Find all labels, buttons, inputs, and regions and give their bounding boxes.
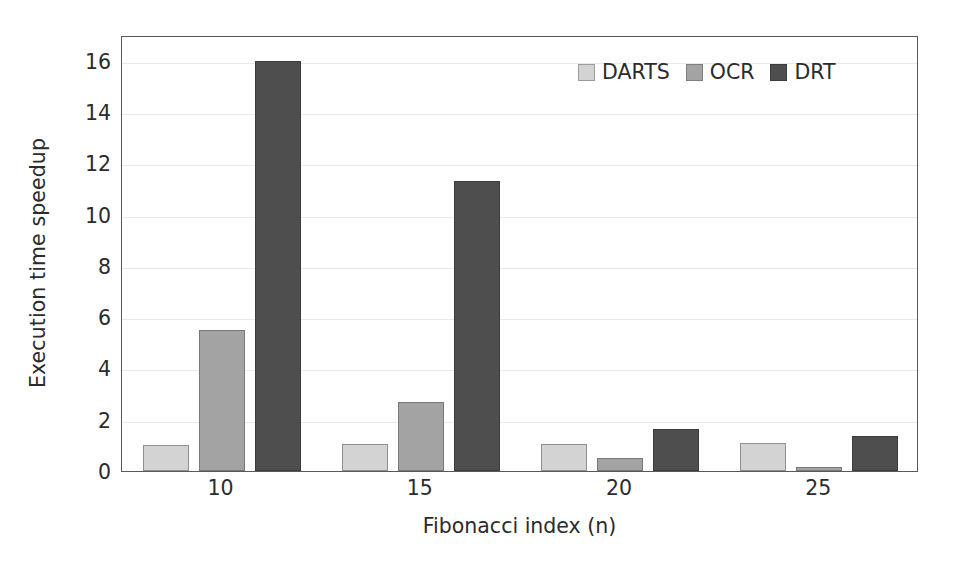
bar-ocr-20 <box>597 458 643 471</box>
y-tick-label: 16 <box>63 51 111 72</box>
bar-darts-10 <box>143 445 189 471</box>
bar-darts-25 <box>740 443 786 471</box>
x-tick-label: 20 <box>606 478 632 499</box>
legend-swatch-icon <box>686 64 703 81</box>
bar-drt-20 <box>653 429 699 471</box>
bars-layer <box>122 37 917 471</box>
bar-ocr-10 <box>199 330 245 471</box>
chart-legend: DARTSOCRDRT <box>578 62 836 83</box>
y-tick-label: 10 <box>63 205 111 226</box>
plot-inner <box>122 37 917 471</box>
legend-item-ocr[interactable]: OCR <box>686 62 755 83</box>
y-tick-label: 2 <box>63 410 111 431</box>
legend-item-darts[interactable]: DARTS <box>578 62 670 83</box>
y-axis-title: Execution time speedup <box>15 28 61 498</box>
bar-drt-10 <box>255 61 301 471</box>
x-tick-label: 10 <box>208 478 234 499</box>
plot-area <box>121 36 918 472</box>
bar-ocr-15 <box>398 402 444 471</box>
y-tick-label: 14 <box>63 103 111 124</box>
bar-chart: Execution time speedup 0246810121416 101… <box>0 0 954 570</box>
bar-drt-25 <box>852 436 898 471</box>
legend-label: DRT <box>794 62 835 83</box>
bar-drt-15 <box>454 181 500 471</box>
y-axis-tick-labels: 0246810121416 <box>59 36 111 472</box>
bar-darts-15 <box>342 444 388 471</box>
legend-swatch-icon <box>770 64 787 81</box>
y-tick-label: 4 <box>63 359 111 380</box>
y-tick-label: 12 <box>63 154 111 175</box>
legend-item-drt[interactable]: DRT <box>770 62 835 83</box>
legend-swatch-icon <box>578 64 595 81</box>
legend-label: DARTS <box>602 62 670 83</box>
y-tick-label: 8 <box>63 257 111 278</box>
y-tick-label: 0 <box>63 462 111 483</box>
legend-label: OCR <box>710 62 755 83</box>
y-tick-label: 6 <box>63 308 111 329</box>
bar-ocr-25 <box>796 467 842 471</box>
x-tick-label: 25 <box>805 478 831 499</box>
bar-darts-20 <box>541 444 587 471</box>
x-axis-tick-labels: 10152025 <box>121 478 918 508</box>
x-tick-label: 15 <box>407 478 433 499</box>
x-axis-title: Fibonacci index (n) <box>121 514 918 538</box>
